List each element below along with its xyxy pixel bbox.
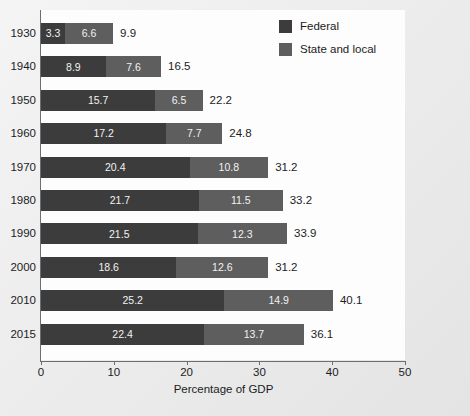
stacked-bar[interactable]: 25.214.9 [41, 290, 333, 311]
bar-row: 201025.214.940.1 [0, 290, 470, 311]
bar-segment-federal[interactable]: 15.7 [41, 90, 155, 111]
legend-swatch-icon [279, 43, 292, 56]
x-axis-tick [114, 361, 115, 365]
bar-segment-value: 21.5 [109, 229, 129, 240]
bar-segment-federal[interactable]: 18.6 [41, 257, 176, 278]
bar-segment-value: 25.2 [123, 295, 143, 306]
bar-segment-federal[interactable]: 22.4 [41, 324, 204, 345]
bar-total-label: 33.2 [283, 190, 312, 211]
x-axis-label: Percentage of GDP [41, 383, 406, 395]
stacked-bar[interactable]: 18.612.6 [41, 257, 268, 278]
bar-row: 199021.512.333.9 [0, 223, 470, 244]
legend-item-label: State and local [300, 43, 376, 55]
category-label: 1960 [0, 123, 36, 144]
bar-total-label: 24.8 [222, 123, 251, 144]
bar-segment-value: 20.4 [105, 162, 125, 173]
bar-segment-state-and-local[interactable]: 6.6 [65, 23, 113, 44]
x-axis-tick [332, 361, 333, 365]
category-label: 1990 [0, 223, 36, 244]
bar-segment-federal[interactable]: 17.2 [41, 123, 166, 144]
bar-row: 19303.36.69.9 [0, 23, 470, 44]
bar-segment-value: 7.6 [126, 62, 141, 73]
x-axis-tick-label: 30 [239, 366, 279, 378]
bar-segment-state-and-local[interactable]: 11.5 [199, 190, 283, 211]
bar-row: 200018.612.631.2 [0, 257, 470, 278]
bar-total-label: 31.2 [268, 257, 297, 278]
stacked-bar[interactable]: 21.512.3 [41, 223, 287, 244]
category-label: 1970 [0, 157, 36, 178]
bar-segment-federal[interactable]: 8.9 [41, 56, 106, 77]
bar-segment-state-and-local[interactable]: 7.7 [166, 123, 222, 144]
bar-segment-value: 13.7 [244, 329, 264, 340]
category-label: 1950 [0, 90, 36, 111]
x-axis-tick-label: 20 [167, 366, 207, 378]
bar-total-label: 33.9 [287, 223, 316, 244]
stacked-bar[interactable]: 3.36.6 [41, 23, 113, 44]
bar-segment-value: 3.3 [46, 28, 61, 39]
bar-segment-value: 18.6 [98, 262, 118, 273]
bar-segment-state-and-local[interactable]: 13.7 [204, 324, 304, 345]
bar-segment-federal[interactable]: 21.5 [41, 223, 198, 244]
category-label: 2015 [0, 324, 36, 345]
x-axis-line [41, 361, 406, 362]
x-axis-tick [405, 361, 406, 365]
category-label: 1940 [0, 56, 36, 77]
bar-row: 195015.76.522.2 [0, 90, 470, 111]
bar-segment-state-and-local[interactable]: 12.6 [176, 257, 268, 278]
bar-segment-value: 6.5 [172, 95, 187, 106]
stacked-bar[interactable]: 8.97.6 [41, 56, 161, 77]
bar-segment-value: 8.9 [66, 62, 81, 73]
x-axis-tick-label: 10 [94, 366, 134, 378]
bar-row: 19408.97.616.5 [0, 56, 470, 77]
bar-segment-value: 17.2 [93, 128, 113, 139]
legend-item[interactable]: State and local [279, 39, 376, 59]
bar-total-label: 40.1 [333, 290, 362, 311]
bar-total-label: 36.1 [304, 324, 333, 345]
bar-row: 197020.410.831.2 [0, 157, 470, 178]
stacked-bar[interactable]: 21.711.5 [41, 190, 283, 211]
bar-segment-state-and-local[interactable]: 14.9 [224, 290, 332, 311]
category-label: 2010 [0, 290, 36, 311]
bar-segment-federal[interactable]: 20.4 [41, 157, 190, 178]
x-axis-tick [259, 361, 260, 365]
bar-segment-value: 6.6 [82, 28, 97, 39]
bar-segment-state-and-local[interactable]: 7.6 [106, 56, 161, 77]
x-axis-tick [41, 361, 42, 365]
x-axis-tick-label: 0 [21, 366, 61, 378]
bar-total-label: 9.9 [113, 23, 136, 44]
legend-item-label: Federal [300, 20, 339, 32]
bar-total-label: 22.2 [203, 90, 232, 111]
category-label: 2000 [0, 257, 36, 278]
x-axis-tick-label: 40 [312, 366, 352, 378]
x-axis-tick-label: 50 [385, 366, 425, 378]
bar-row: 201522.413.736.1 [0, 324, 470, 345]
bar-segment-value: 21.7 [110, 195, 130, 206]
bar-segment-state-and-local[interactable]: 12.3 [198, 223, 288, 244]
bar-segment-value: 10.8 [219, 162, 239, 173]
bar-segment-state-and-local[interactable]: 10.8 [190, 157, 269, 178]
bar-total-label: 31.2 [268, 157, 297, 178]
bar-segment-value: 15.7 [88, 95, 108, 106]
bar-segment-state-and-local[interactable]: 6.5 [155, 90, 202, 111]
legend-item[interactable]: Federal [279, 16, 376, 36]
bar-segment-value: 12.6 [212, 262, 232, 273]
category-label: 1980 [0, 190, 36, 211]
bar-segment-federal[interactable]: 25.2 [41, 290, 224, 311]
chart-page: 19303.36.69.919408.97.616.5195015.76.522… [0, 0, 470, 416]
bar-row: 196017.27.724.8 [0, 123, 470, 144]
bar-total-label: 16.5 [161, 56, 190, 77]
stacked-bar[interactable]: 15.76.5 [41, 90, 203, 111]
bar-segment-value: 11.5 [231, 195, 251, 206]
category-label: 1930 [0, 23, 36, 44]
bar-segment-federal[interactable]: 3.3 [41, 23, 65, 44]
bar-segment-value: 14.9 [268, 295, 288, 306]
stacked-bar[interactable]: 22.413.7 [41, 324, 304, 345]
bar-segment-value: 12.3 [232, 229, 252, 240]
bar-segment-value: 22.4 [112, 329, 132, 340]
stacked-bar[interactable]: 20.410.8 [41, 157, 268, 178]
bar-segment-value: 7.7 [187, 128, 202, 139]
bar-segment-federal[interactable]: 21.7 [41, 190, 199, 211]
legend-swatch-icon [279, 20, 292, 33]
x-axis-tick [187, 361, 188, 365]
stacked-bar[interactable]: 17.27.7 [41, 123, 222, 144]
